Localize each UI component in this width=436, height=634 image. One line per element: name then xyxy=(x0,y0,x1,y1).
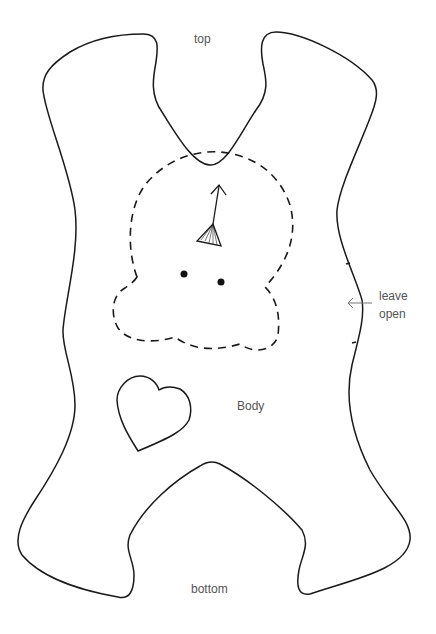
pattern-canvas: top Body bottom leave open xyxy=(0,0,436,634)
head-placement-outline xyxy=(113,152,292,350)
leave-open-arrow-icon xyxy=(348,298,372,308)
label-top: top xyxy=(194,32,211,46)
label-leave-open: leave open xyxy=(379,287,408,323)
eye-right-icon xyxy=(218,279,225,286)
body-outline xyxy=(18,32,410,598)
eye-left-icon xyxy=(181,271,188,278)
open-mark-top xyxy=(346,263,350,264)
grainline-arrow-icon xyxy=(197,185,226,246)
label-bottom: bottom xyxy=(191,582,228,596)
open-mark-bottom xyxy=(352,342,356,343)
label-leave-line1: leave xyxy=(379,287,408,305)
label-piece-name: Body xyxy=(237,399,264,413)
heart-icon xyxy=(117,376,191,451)
pattern-drawing xyxy=(0,0,436,634)
label-leave-line2: open xyxy=(379,305,408,323)
